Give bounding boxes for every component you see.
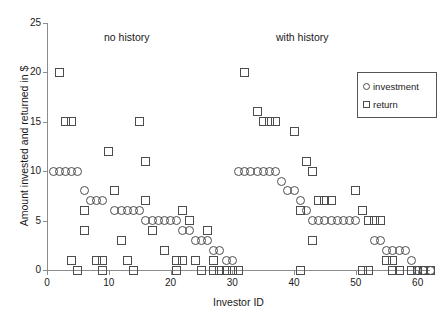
data-point-return bbox=[80, 226, 89, 235]
y-axis-line bbox=[47, 23, 48, 271]
square-marker-icon bbox=[363, 101, 370, 108]
data-point-investment bbox=[296, 196, 305, 205]
data-point-investment bbox=[277, 177, 286, 186]
data-point-return bbox=[178, 256, 187, 265]
chart-legend: investment return bbox=[357, 72, 437, 118]
data-point-investment bbox=[209, 246, 218, 255]
data-point-investment bbox=[407, 256, 416, 265]
data-point-return bbox=[67, 117, 76, 126]
data-point-return bbox=[265, 117, 274, 126]
x-tick-label: 20 bbox=[156, 277, 186, 288]
data-point-return bbox=[110, 186, 119, 195]
y-tick bbox=[43, 171, 47, 172]
legend-entry-investment: investment bbox=[363, 81, 419, 92]
data-point-investment bbox=[401, 246, 410, 255]
data-point-investment bbox=[73, 167, 82, 176]
data-point-investment bbox=[370, 236, 379, 245]
data-point-return bbox=[80, 206, 89, 215]
data-point-investment bbox=[376, 236, 385, 245]
data-point-return bbox=[92, 256, 101, 265]
data-point-return bbox=[296, 206, 305, 215]
data-point-investment bbox=[234, 167, 243, 176]
data-point-investment bbox=[339, 216, 348, 225]
data-point-investment bbox=[240, 167, 249, 176]
data-point-return bbox=[135, 117, 144, 126]
y-tick bbox=[43, 122, 47, 123]
data-point-return bbox=[67, 256, 76, 265]
data-point-return bbox=[203, 226, 212, 235]
data-point-return bbox=[382, 256, 391, 265]
circle-marker-icon bbox=[363, 83, 370, 90]
x-tick-label: 60 bbox=[403, 277, 433, 288]
data-point-investment bbox=[98, 196, 107, 205]
data-point-investment bbox=[215, 246, 224, 255]
data-point-return bbox=[376, 216, 385, 225]
data-point-investment bbox=[197, 236, 206, 245]
legend-label-return: return bbox=[373, 99, 398, 110]
data-point-investment bbox=[185, 226, 194, 235]
data-point-investment bbox=[395, 246, 404, 255]
data-point-investment bbox=[110, 206, 119, 215]
data-point-return bbox=[302, 157, 311, 166]
data-point-investment bbox=[345, 216, 354, 225]
x-tick bbox=[294, 271, 295, 275]
data-point-return bbox=[178, 206, 187, 215]
data-point-investment bbox=[308, 216, 317, 225]
data-point-investment bbox=[61, 167, 70, 176]
data-point-return bbox=[271, 117, 280, 126]
data-point-return bbox=[308, 167, 317, 176]
data-point-investment bbox=[246, 167, 255, 176]
data-point-investment bbox=[49, 167, 58, 176]
data-point-investment bbox=[154, 216, 163, 225]
data-point-return bbox=[98, 256, 107, 265]
y-tick-label: 0 bbox=[15, 265, 41, 275]
data-point-investment bbox=[283, 186, 292, 195]
data-point-return bbox=[172, 256, 181, 265]
data-point-investment bbox=[67, 167, 76, 176]
data-point-investment bbox=[117, 206, 126, 215]
y-tick bbox=[43, 72, 47, 73]
x-tick-label: 30 bbox=[217, 277, 247, 288]
scatter-chart-figure: 0510152025 0102030405060 Amount invested… bbox=[0, 0, 445, 325]
data-point-investment bbox=[160, 216, 169, 225]
data-point-return bbox=[351, 186, 360, 195]
data-point-return bbox=[141, 196, 150, 205]
x-tick-label: 40 bbox=[279, 277, 309, 288]
y-tick bbox=[43, 221, 47, 222]
group-title-no-history: no history bbox=[104, 31, 150, 43]
data-point-investment bbox=[351, 216, 360, 225]
data-point-investment bbox=[290, 186, 299, 195]
data-point-return bbox=[327, 196, 336, 205]
data-point-investment bbox=[203, 236, 212, 245]
data-point-investment bbox=[172, 216, 181, 225]
data-point-investment bbox=[259, 167, 268, 176]
data-point-investment bbox=[271, 167, 280, 176]
data-point-investment bbox=[320, 216, 329, 225]
data-point-return bbox=[314, 196, 323, 205]
data-point-investment bbox=[92, 196, 101, 205]
data-point-return bbox=[148, 226, 157, 235]
x-tick-label: 0 bbox=[32, 277, 62, 288]
data-point-return bbox=[191, 256, 200, 265]
data-point-return bbox=[308, 236, 317, 245]
data-point-return bbox=[185, 216, 194, 225]
data-point-investment bbox=[327, 216, 336, 225]
x-tick bbox=[356, 271, 357, 275]
data-point-investment bbox=[314, 216, 323, 225]
data-point-investment bbox=[178, 226, 187, 235]
data-point-investment bbox=[333, 216, 342, 225]
x-tick bbox=[418, 271, 419, 275]
data-point-return bbox=[259, 117, 268, 126]
data-point-return bbox=[364, 216, 373, 225]
data-point-investment bbox=[80, 186, 89, 195]
data-point-return bbox=[209, 256, 218, 265]
data-point-return bbox=[141, 157, 150, 166]
data-point-investment bbox=[302, 206, 311, 215]
data-point-return bbox=[370, 216, 379, 225]
legend-entry-return: return bbox=[363, 99, 398, 110]
data-point-investment bbox=[123, 206, 132, 215]
y-tick bbox=[43, 23, 47, 24]
data-point-return bbox=[104, 147, 113, 156]
data-point-investment bbox=[148, 216, 157, 225]
data-point-return bbox=[358, 206, 367, 215]
